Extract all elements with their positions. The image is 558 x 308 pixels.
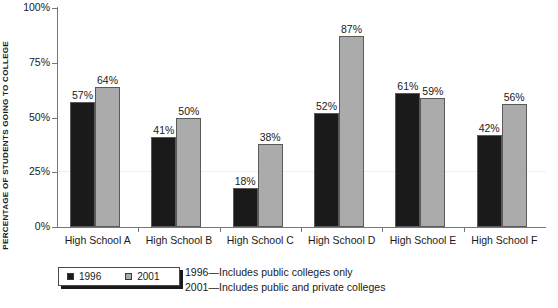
bar-group: 18%38%High School C: [220, 8, 301, 227]
bar-value-label: 50%: [178, 105, 199, 117]
x-axis-category-label: High School B: [138, 234, 219, 246]
bar[interactable]: 64%: [95, 87, 120, 227]
dark-square-icon: [67, 273, 74, 280]
legend-item-2001[interactable]: 2001: [125, 271, 159, 282]
bar-group: 61%59%High School E: [382, 8, 463, 227]
legend-box: 1996 2001: [58, 267, 180, 286]
bar[interactable]: 61%: [395, 93, 420, 227]
bar-value-label: 38%: [260, 131, 281, 143]
x-axis-category-label: High School D: [301, 234, 382, 246]
x-axis-tick-mark: [301, 227, 302, 232]
x-axis-category-label: High School E: [382, 234, 463, 246]
legend-item-1996[interactable]: 1996: [67, 271, 101, 282]
bar-value-label: 42%: [479, 122, 500, 134]
chart-legend: 1996 2001: [58, 267, 180, 286]
bar-value-label: 52%: [316, 100, 337, 112]
bar[interactable]: 87%: [339, 36, 364, 227]
x-axis-tick-mark: [382, 227, 383, 232]
bar-value-label: 61%: [397, 80, 418, 92]
bar-group: 42%56%High School F: [464, 8, 545, 227]
bar[interactable]: 59%: [420, 98, 445, 227]
footnote-1996: 1996—Includes public colleges only: [185, 265, 385, 280]
bar[interactable]: 18%: [233, 188, 258, 227]
bar[interactable]: 50%: [176, 118, 201, 228]
y-axis-title: PERCENTAGE OF STUDENTS GOING TO COLLEGE: [0, 0, 12, 250]
chart-plot-area: 0%25%50%75%100% 57%64%High School A41%50…: [57, 8, 545, 227]
bar[interactable]: 52%: [314, 113, 339, 227]
bar-value-label: 64%: [97, 74, 118, 86]
bar-value-label: 87%: [341, 23, 362, 35]
bar[interactable]: 56%: [502, 104, 527, 227]
bar[interactable]: 41%: [151, 137, 176, 227]
bar-value-label: 56%: [504, 91, 525, 103]
footnote-2001: 2001—Includes public and private college…: [185, 280, 385, 295]
y-axis-title-text: PERCENTAGE OF STUDENTS GOING TO COLLEGE: [0, 41, 11, 250]
y-axis-tick-label: 0%: [35, 220, 50, 233]
y-axis-tick-label: 75%: [29, 56, 50, 69]
x-axis-tick-mark: [138, 227, 139, 232]
bar-value-label: 57%: [72, 89, 93, 101]
bar[interactable]: 57%: [70, 102, 95, 227]
bar-group: 41%50%High School B: [138, 8, 219, 227]
x-axis-tick-mark: [464, 227, 465, 232]
x-axis-category-label: High School A: [57, 234, 138, 246]
x-axis-category-label: High School C: [220, 234, 301, 246]
gray-square-icon: [125, 273, 132, 280]
x-axis-tick-mark: [220, 227, 221, 232]
x-axis-category-label: High School F: [464, 234, 545, 246]
y-axis-tick-label: 50%: [29, 111, 50, 124]
bar[interactable]: 38%: [258, 144, 283, 227]
legend-label-1996: 1996: [79, 271, 101, 282]
bar-group: 57%64%High School A: [57, 8, 138, 227]
bar-value-label: 59%: [422, 85, 443, 97]
y-axis-tick-label: 25%: [29, 165, 50, 178]
bar[interactable]: 42%: [477, 135, 502, 227]
chart-footnotes: 1996—Includes public colleges only 2001—…: [185, 265, 385, 294]
bar-group: 52%87%High School D: [301, 8, 382, 227]
y-axis-tick-label: 100%: [23, 1, 50, 14]
bar-value-label: 41%: [153, 124, 174, 136]
bar-value-label: 18%: [235, 175, 256, 187]
legend-label-2001: 2001: [137, 271, 159, 282]
y-axis-tick-mark: [52, 227, 57, 228]
